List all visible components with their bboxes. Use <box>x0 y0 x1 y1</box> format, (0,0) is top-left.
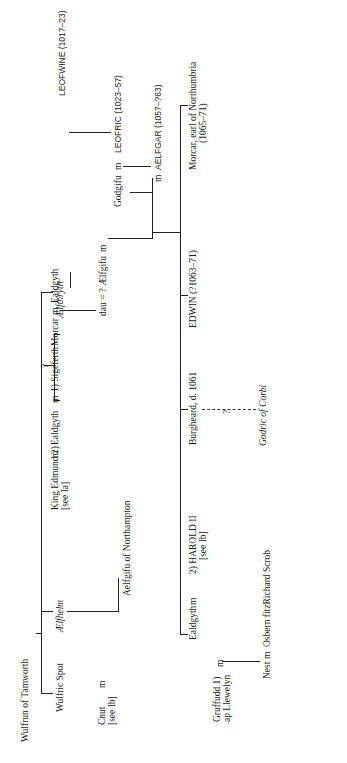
person-leofric: LEOFRIC (1023–57) <box>113 75 123 153</box>
person-leofwine: LEOFWINE (1017–23) <box>57 10 67 96</box>
line <box>152 178 153 239</box>
person-ealdgyth-2: Ealdgyth <box>50 269 60 303</box>
person-harold-ii: 2) HAROLD II <box>188 515 198 574</box>
person-aelfhelm: Ælfhelm <box>55 600 65 632</box>
sibling-bar-aelfgar <box>180 105 181 635</box>
line <box>180 105 188 106</box>
person-morcar: Morcar <box>50 318 60 346</box>
marriage-mark: m <box>113 163 123 170</box>
harold-ref: [see Ib] <box>198 531 208 560</box>
person-edwin: EDWIN (?1063–71) <box>188 250 198 328</box>
line <box>54 400 60 401</box>
person-burgheard: Burgheard, d. 1061 <box>188 372 198 445</box>
person-wulfrun: Wulfrun of Tamworth <box>20 659 30 742</box>
line <box>130 192 152 193</box>
line <box>41 611 53 612</box>
marriage-mark: m <box>188 598 198 605</box>
marriage-mark: m <box>50 451 60 458</box>
person-sigeferth: 1) Sigeferth <box>50 347 60 392</box>
person-aelfgifu-northampton: Aelfgifu of Northampton <box>122 500 132 596</box>
marriage-mark: m <box>262 652 272 659</box>
cnut-ref: [see Ib] <box>107 696 117 725</box>
line <box>44 365 54 366</box>
line <box>67 611 118 612</box>
line <box>180 295 188 296</box>
morcar-dates: (1065–71) <box>198 103 208 143</box>
person-aelfgar: AELFGAR (1057–?63) <box>153 84 163 170</box>
sibling-bar-gen1 <box>41 292 42 694</box>
line <box>118 578 119 612</box>
line <box>108 238 152 239</box>
edmund-ref: [see Ia] <box>60 482 70 510</box>
line <box>180 409 188 410</box>
person-osbern: Osbern fitzRichard Scrob <box>262 550 272 647</box>
line <box>41 693 53 694</box>
line <box>180 634 188 635</box>
marriage-mark: m <box>50 308 60 315</box>
family-tree-diagram: Wulfrun of Tamworth Wulfric Spot Ælfhelm… <box>0 0 347 763</box>
person-ealdgyth-3: Ealdgyth <box>188 606 198 640</box>
person-gruffudd: Gruffudd 1) <box>212 677 222 722</box>
person-cnut: Cnut <box>97 707 107 725</box>
line <box>222 661 260 662</box>
line <box>123 166 151 167</box>
marriage-mark: m <box>98 245 108 252</box>
person-morcar-northumbria: Morcar, earl of Northumbria <box>188 62 198 170</box>
line <box>69 132 111 133</box>
line <box>152 232 180 233</box>
line <box>60 310 96 311</box>
person-gruffudd-2: ap Llewelyn <box>222 675 232 722</box>
uncertain-mark: ? <box>222 410 232 414</box>
person-godgifu: Godgifu <box>113 175 123 207</box>
person-wulfric-spot: Wulfric Spot <box>55 663 65 712</box>
person-dau-aelfgifu: dau = ? Ælfgifu <box>98 256 108 316</box>
line <box>70 272 71 288</box>
person-ealdgyth: Ealdgyth <box>50 411 60 445</box>
marriage-mark: m <box>97 681 107 688</box>
person-godric-corbi: Godric of Corbi <box>258 385 268 446</box>
person-nest: Nest <box>262 662 272 679</box>
marriage-mark: m <box>153 175 163 182</box>
